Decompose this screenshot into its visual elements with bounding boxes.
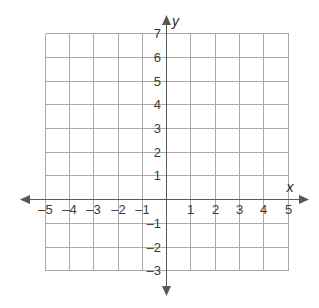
x-tick-label-3: 3 (236, 202, 243, 217)
x-tick-label--1: –1 (135, 202, 149, 217)
y-tick-label-6: 6 (154, 50, 161, 65)
x-tick-label-1: 1 (187, 202, 194, 217)
x-tick-label--4: –4 (62, 202, 76, 217)
y-tick-label-4: 4 (154, 97, 161, 112)
y-tick-label-5: 5 (154, 74, 161, 89)
y-tick-label-7: 7 (154, 26, 161, 41)
y-axis-arrow-down (162, 286, 171, 296)
x-tick-label--5: –5 (38, 202, 52, 217)
x-tick-label--3: –3 (86, 202, 100, 217)
x-tick-label-2: 2 (212, 202, 219, 217)
y-axis-label: y (171, 13, 180, 29)
y-tick-label--1: –1 (147, 216, 161, 231)
y-tick-label--2: –2 (147, 240, 161, 255)
y-tick-label-3: 3 (154, 121, 161, 136)
x-axis-label: x (286, 179, 295, 195)
y-tick-label--3: –3 (147, 263, 161, 278)
x-tick-labels: –5 –4 –3 –2 –1 1 2 3 4 5 (38, 202, 292, 217)
x-axis-arrow-right (299, 195, 309, 204)
x-tick-label-4: 4 (260, 202, 267, 217)
coordinate-plane-canvas: y x –5 –4 –3 –2 –1 1 2 3 4 5 7 6 5 4 3 2… (0, 0, 319, 308)
coordinate-plane-figure: y x –5 –4 –3 –2 –1 1 2 3 4 5 7 6 5 4 3 2… (0, 0, 319, 308)
y-axis-arrow-up (162, 15, 171, 25)
y-tick-label-1: 1 (154, 168, 161, 183)
x-tick-label-5: 5 (285, 202, 292, 217)
x-axis-arrow-left (20, 195, 30, 204)
x-tick-label--2: –2 (111, 202, 125, 217)
y-tick-label-2: 2 (154, 145, 161, 160)
